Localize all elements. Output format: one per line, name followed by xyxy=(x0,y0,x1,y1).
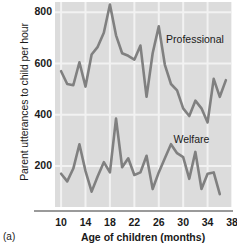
x-axis-line xyxy=(34,210,233,212)
x-tick-label: 22 xyxy=(122,216,146,228)
y-axis-tick-labels: 800600400200 xyxy=(22,0,52,215)
x-tick-label: 10 xyxy=(49,216,73,228)
y-tick-label: 200 xyxy=(22,160,52,171)
y-tick-label: 600 xyxy=(22,58,52,69)
chart-figure: Parent utterances to child per hour 8006… xyxy=(0,0,237,250)
x-tick-label: 38 xyxy=(220,216,237,228)
y-tick-label: 400 xyxy=(22,109,52,120)
x-tick-label: 30 xyxy=(171,216,195,228)
x-tick-label: 18 xyxy=(98,216,122,228)
y-tick-label: 800 xyxy=(22,6,52,17)
series-label-welfare: Welfare xyxy=(173,133,209,145)
panel-tag: (a) xyxy=(3,231,15,242)
x-axis-label: Age of children (months) xyxy=(52,231,234,243)
x-tick-label: 26 xyxy=(147,216,171,228)
series-label-professional: Professional xyxy=(166,33,224,45)
x-tick-label: 14 xyxy=(74,216,98,228)
plot-area: Professional Welfare xyxy=(55,2,232,207)
x-tick-label: 34 xyxy=(196,216,220,228)
